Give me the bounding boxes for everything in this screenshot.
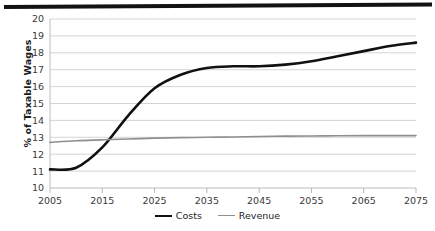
legend-item-costs[interactable]: Costs (155, 210, 202, 221)
chart-figure: % of Taxable Wages 201918171615141312111… (0, 0, 435, 231)
legend-line-icon-costs (155, 215, 172, 217)
x-tick-label: 2015 (90, 195, 114, 206)
x-tick-marks (50, 188, 416, 193)
plot-area: 2019181716151413121110 20052015202520352… (0, 0, 435, 231)
y-tick-labels: 2019181716151413121110 (32, 13, 44, 193)
y-tick-label: 18 (32, 47, 44, 58)
x-tick-label: 2065 (352, 195, 376, 206)
y-tick-label: 20 (32, 13, 44, 24)
y-tick-label: 17 (32, 64, 44, 75)
gridlines (50, 19, 416, 188)
y-tick-label: 19 (32, 30, 44, 41)
x-tick-label: 2055 (299, 195, 323, 206)
chart-legend: Costs Revenue (0, 210, 435, 221)
y-tick-label: 13 (32, 132, 44, 143)
legend-line-icon-revenue (218, 215, 235, 216)
y-tick-label: 15 (32, 98, 44, 109)
legend-item-revenue[interactable]: Revenue (218, 210, 280, 221)
y-tick-label: 16 (32, 81, 44, 92)
series-line-revenue (50, 136, 416, 143)
x-tick-label: 2075 (404, 195, 428, 206)
series-line-costs (50, 43, 416, 170)
y-tick-label: 12 (32, 149, 44, 160)
x-tick-label: 2025 (142, 195, 166, 206)
x-tick-label: 2035 (195, 195, 219, 206)
y-tick-label: 14 (32, 115, 44, 126)
y-tick-label: 10 (32, 182, 44, 193)
series-lines (50, 43, 416, 170)
x-tick-labels: 20052015202520352045205520652075 (38, 195, 428, 206)
x-tick-label: 2005 (38, 195, 62, 206)
legend-label-revenue: Revenue (239, 210, 280, 221)
y-tick-label: 11 (32, 166, 44, 177)
legend-label-costs: Costs (176, 210, 202, 221)
x-tick-label: 2045 (247, 195, 271, 206)
